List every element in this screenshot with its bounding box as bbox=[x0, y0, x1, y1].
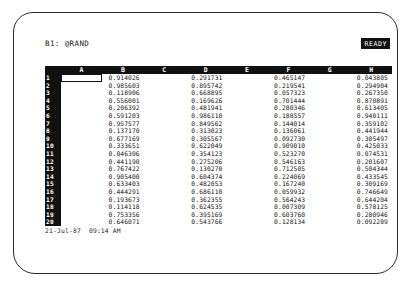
cell-G19[interactable] bbox=[309, 211, 350, 219]
cell-A20[interactable] bbox=[61, 218, 102, 226]
cell-G18[interactable] bbox=[309, 203, 350, 211]
cell-B8[interactable]: 0.137170 bbox=[102, 127, 143, 135]
cell-H5[interactable]: 0.613405 bbox=[351, 104, 392, 112]
cell-C20[interactable] bbox=[144, 218, 185, 226]
cell-F2[interactable]: 0.219541 bbox=[268, 82, 309, 90]
cell-H17[interactable]: 0.644204 bbox=[351, 196, 392, 204]
cell-A7[interactable] bbox=[61, 120, 102, 128]
cell-D11[interactable]: 0.354123 bbox=[185, 150, 226, 158]
cell-B15[interactable]: 0.633403 bbox=[102, 180, 143, 188]
row-header-19[interactable]: 19 bbox=[45, 211, 61, 219]
cell-G1[interactable] bbox=[309, 74, 350, 82]
cell-H14[interactable]: 0.433545 bbox=[351, 173, 392, 181]
cell-C17[interactable] bbox=[144, 196, 185, 204]
cell-B3[interactable]: 0.118906 bbox=[102, 89, 143, 97]
cell-A8[interactable] bbox=[61, 127, 102, 135]
cell-C2[interactable] bbox=[144, 82, 185, 90]
cell-E9[interactable] bbox=[227, 135, 268, 143]
cell-A16[interactable] bbox=[61, 188, 102, 196]
cell-F20[interactable]: 0.128134 bbox=[268, 218, 309, 226]
cell-E12[interactable] bbox=[227, 158, 268, 166]
row-header-20[interactable]: 20 bbox=[45, 218, 61, 226]
cell-H19[interactable]: 0.280946 bbox=[351, 211, 392, 219]
cell-H7[interactable]: 0.359102 bbox=[351, 120, 392, 128]
cell-G11[interactable] bbox=[309, 150, 350, 158]
cell-G4[interactable] bbox=[309, 97, 350, 105]
cells-area[interactable]: 0.9140260.2917310.4651470.0438050.985603… bbox=[61, 74, 392, 226]
cell-H11[interactable]: 0.074531 bbox=[351, 150, 392, 158]
cell-D12[interactable]: 0.275206 bbox=[185, 158, 226, 166]
row-header-2[interactable]: 2 bbox=[45, 82, 61, 90]
cell-E19[interactable] bbox=[227, 211, 268, 219]
cell-E3[interactable] bbox=[227, 89, 268, 97]
cell-E1[interactable] bbox=[227, 74, 268, 82]
cell-E5[interactable] bbox=[227, 104, 268, 112]
row-header-13[interactable]: 13 bbox=[45, 165, 61, 173]
cell-A2[interactable] bbox=[61, 82, 102, 90]
row-header-14[interactable]: 14 bbox=[45, 173, 61, 181]
cell-B19[interactable]: 0.753356 bbox=[102, 211, 143, 219]
cell-A14[interactable] bbox=[61, 173, 102, 181]
column-header-c[interactable]: C bbox=[144, 66, 185, 74]
row-header-16[interactable]: 16 bbox=[45, 188, 61, 196]
cell-H18[interactable]: 0.578125 bbox=[351, 203, 392, 211]
cell-H6[interactable]: 0.940111 bbox=[351, 112, 392, 120]
cell-A18[interactable] bbox=[61, 203, 102, 211]
cell-A1[interactable] bbox=[61, 74, 102, 82]
cell-C5[interactable] bbox=[144, 104, 185, 112]
cell-B20[interactable]: 0.646071 bbox=[102, 218, 143, 226]
cell-D19[interactable]: 0.395169 bbox=[185, 211, 226, 219]
cell-B13[interactable]: 0.767422 bbox=[102, 165, 143, 173]
cell-C3[interactable] bbox=[144, 89, 185, 97]
cell-A9[interactable] bbox=[61, 135, 102, 143]
cell-B4[interactable]: 0.556001 bbox=[102, 97, 143, 105]
cell-D6[interactable]: 0.986110 bbox=[185, 112, 226, 120]
cell-E13[interactable] bbox=[227, 165, 268, 173]
cell-D10[interactable]: 0.622049 bbox=[185, 142, 226, 150]
cell-A11[interactable] bbox=[61, 150, 102, 158]
cell-A3[interactable] bbox=[61, 89, 102, 97]
cell-G16[interactable] bbox=[309, 188, 350, 196]
cell-H8[interactable]: 0.441944 bbox=[351, 127, 392, 135]
cell-A13[interactable] bbox=[61, 165, 102, 173]
cell-G12[interactable] bbox=[309, 158, 350, 166]
cell-H10[interactable]: 0.425033 bbox=[351, 142, 392, 150]
cell-C19[interactable] bbox=[144, 211, 185, 219]
cell-A12[interactable] bbox=[61, 158, 102, 166]
cell-B11[interactable]: 0.046306 bbox=[102, 150, 143, 158]
cell-C9[interactable] bbox=[144, 135, 185, 143]
cell-F12[interactable]: 0.546163 bbox=[268, 158, 309, 166]
row-header-11[interactable]: 11 bbox=[45, 150, 61, 158]
cell-B7[interactable]: 0.957577 bbox=[102, 120, 143, 128]
row-header-3[interactable]: 3 bbox=[45, 89, 61, 97]
cell-D16[interactable]: 0.686110 bbox=[185, 188, 226, 196]
cell-H12[interactable]: 0.201607 bbox=[351, 158, 392, 166]
cell-F4[interactable]: 0.701444 bbox=[268, 97, 309, 105]
cell-H13[interactable]: 0.504344 bbox=[351, 165, 392, 173]
cell-E16[interactable] bbox=[227, 188, 268, 196]
cell-F9[interactable]: 0.092730 bbox=[268, 135, 309, 143]
cell-D17[interactable]: 0.362355 bbox=[185, 196, 226, 204]
cell-B14[interactable]: 0.905400 bbox=[102, 173, 143, 181]
cell-G14[interactable] bbox=[309, 173, 350, 181]
cell-F17[interactable]: 0.564243 bbox=[268, 196, 309, 204]
cell-F11[interactable]: 0.523270 bbox=[268, 150, 309, 158]
cell-F15[interactable]: 0.167240 bbox=[268, 180, 309, 188]
cell-D15[interactable]: 0.482053 bbox=[185, 180, 226, 188]
cell-E15[interactable] bbox=[227, 180, 268, 188]
cell-A4[interactable] bbox=[61, 97, 102, 105]
cell-F6[interactable]: 0.188557 bbox=[268, 112, 309, 120]
cell-E2[interactable] bbox=[227, 82, 268, 90]
cell-C4[interactable] bbox=[144, 97, 185, 105]
cell-G9[interactable] bbox=[309, 135, 350, 143]
column-header-h[interactable]: H bbox=[351, 66, 392, 74]
cell-B5[interactable]: 0.206392 bbox=[102, 104, 143, 112]
cell-G6[interactable] bbox=[309, 112, 350, 120]
cell-C6[interactable] bbox=[144, 112, 185, 120]
cell-F10[interactable]: 0.909010 bbox=[268, 142, 309, 150]
cell-B12[interactable]: 0.441190 bbox=[102, 158, 143, 166]
cell-F5[interactable]: 0.280346 bbox=[268, 104, 309, 112]
cell-A19[interactable] bbox=[61, 211, 102, 219]
row-header-10[interactable]: 10 bbox=[45, 142, 61, 150]
row-header-5[interactable]: 5 bbox=[45, 104, 61, 112]
